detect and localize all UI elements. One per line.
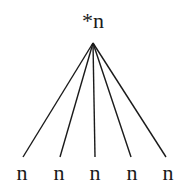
edge-line [60,43,93,157]
edge-line [23,43,93,157]
edge-line [93,43,166,157]
edge-line [93,43,131,157]
leaf-node-label: n [127,160,138,185]
leaf-node-label: n [90,160,101,185]
tree-diagram: *n nnnnn [0,0,182,189]
tree-edges [23,43,166,157]
leaf-node-label: n [17,160,28,185]
root-node-label: *n [82,8,104,33]
leaf-node-label: n [163,160,174,185]
leaf-nodes: nnnnn [17,160,174,185]
leaf-node-label: n [54,160,65,185]
edge-line [93,43,95,157]
